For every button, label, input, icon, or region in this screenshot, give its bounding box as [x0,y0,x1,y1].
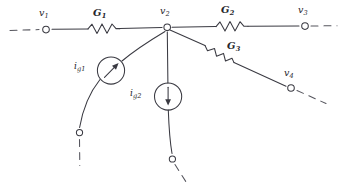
node-label-v4: v4 [284,68,294,78]
wire-ig2-to-terminal2 [168,110,172,154]
terminal-node-ig1[interactable] [76,130,82,136]
node-terminal-v1[interactable] [43,26,50,33]
conductance-label-g3: G3 [227,41,240,51]
wire-v2-to-g2 [172,27,216,28]
current-source-ig2-arrowhead [165,99,171,105]
resistor-g2-zigzag [216,22,248,32]
resistor-g1-zigzag [88,24,120,34]
wire-g3-to-v4 [234,63,286,87]
source-label-ig1: ig1 [74,62,85,71]
circuit-diagram-canvas: v1 v2 v3 v4 G1 G2 G3 ig1 ig2 [0,0,342,191]
node-terminal-v2[interactable] [164,24,171,31]
node-label-v1: v1 [39,8,49,18]
wire-v2-to-g3 [170,30,205,46]
lead-dashed-down-right-v4 [297,91,326,104]
wire-ig1-to-terminal1 [80,80,100,128]
source-label-ig2: ig2 [130,89,141,98]
wire-g1-to-v2 [120,27,162,28]
conductance-label-g2: G2 [221,5,234,15]
node-terminal-v4[interactable] [288,85,295,92]
node-label-v2: v2 [160,6,170,16]
circuit-schematic-svg [0,0,342,191]
terminal-node-ig2[interactable] [169,156,175,162]
wire-v2-to-ig1 [122,32,165,62]
lead-dashed-left-v1 [10,30,39,31]
conductance-label-g1: G1 [93,8,106,18]
node-terminal-v3[interactable] [302,23,309,30]
node-label-v3: v3 [298,5,308,15]
wire-v2-to-ig2 [167,32,168,83]
lead-dashed-down-right-terminal2 [175,165,188,186]
